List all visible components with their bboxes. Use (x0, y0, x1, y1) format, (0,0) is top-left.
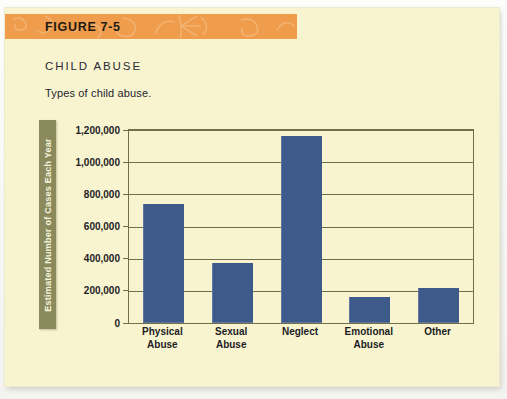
x-axis-tick-label: SexualAbuse (197, 326, 266, 351)
x-axis-tick-label: EmotionalAbuse (334, 326, 403, 351)
x-axis-tick-label: Neglect (266, 326, 335, 339)
bar-neglect (281, 136, 322, 323)
y-axis-tick-label: 400,000 (60, 253, 120, 264)
bar-emotional-abuse (349, 297, 390, 323)
gridline (129, 130, 473, 131)
bar-chart: Estimated Number of Cases Each Year 0200… (5, 8, 499, 386)
figure-root: FIGURE 7-5 CHILD ABUSE Types of child ab… (0, 0, 507, 399)
x-axis-tick-label: Other (403, 326, 472, 339)
y-axis-tick-label: 1,000,000 (60, 156, 120, 167)
y-axis-tick-label: 0 (60, 317, 120, 328)
bar-sexual-abuse (212, 263, 253, 323)
y-axis-title-band: Estimated Number of Cases Each Year (39, 120, 56, 329)
y-axis-tick-labels: 0200,000400,000600,000800,0001,000,0001,… (60, 129, 120, 322)
plot-area (128, 129, 474, 324)
x-axis-tick-labels: PhysicalAbuseSexualAbuseNeglectEmotional… (128, 326, 472, 366)
y-axis-tick-label: 1,200,000 (60, 124, 120, 135)
bar-physical-abuse (143, 204, 184, 323)
bar-other (418, 288, 459, 323)
y-axis-tick-label: 600,000 (60, 221, 120, 232)
figure-page: FIGURE 7-5 CHILD ABUSE Types of child ab… (5, 8, 499, 386)
y-axis-title: Estimated Number of Cases Each Year (43, 138, 53, 312)
y-axis-tick-label: 200,000 (60, 285, 120, 296)
y-axis-tick-label: 800,000 (60, 188, 120, 199)
plot-inner (129, 130, 473, 323)
x-axis-tick-label: PhysicalAbuse (128, 326, 197, 351)
